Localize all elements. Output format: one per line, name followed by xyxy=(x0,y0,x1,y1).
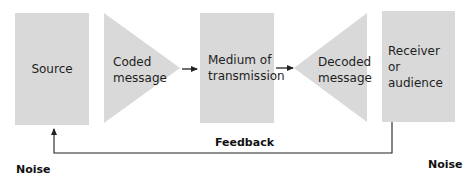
noise-label-left: Noise xyxy=(16,163,51,176)
noise-label-right: Noise xyxy=(428,158,463,171)
coded-message-label: Coded message xyxy=(113,54,167,86)
source-label: Source xyxy=(31,61,72,77)
medium-of-transmission-box: Medium of transmission xyxy=(200,13,274,123)
medium-label: Medium of transmission xyxy=(208,52,285,84)
source-box: Source xyxy=(15,13,89,125)
receiver-or-audience-box: Receiver or audience xyxy=(382,11,455,122)
receiver-label: Receiver or audience xyxy=(388,43,455,91)
decoded-message-label: Decoded message xyxy=(318,54,372,86)
feedback-label: Feedback xyxy=(215,136,274,149)
